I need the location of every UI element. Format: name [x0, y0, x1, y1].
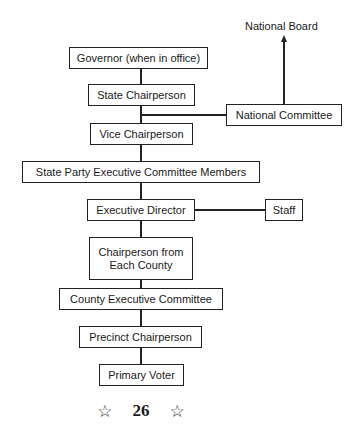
primary-voter-box: Primary Voter [99, 364, 184, 386]
national-board-label: National Board [245, 20, 318, 32]
staff-label: Staff [273, 204, 295, 217]
executive-director-label: Executive Director [96, 204, 185, 217]
executive-director-box: Executive Director [87, 199, 195, 221]
county-exec-committee-label: County Executive Committee [70, 293, 212, 306]
chairperson-each-county-box: Chairperson from Each County [89, 237, 193, 280]
connector-exec-director-to-staff [195, 209, 265, 211]
connector-state-chair-to-national-committee [140, 114, 226, 116]
star-icon: ☆ [97, 401, 112, 421]
connector-county-exec-to-precinct-chair [140, 310, 142, 326]
national-committee-box: National Committee [226, 104, 342, 126]
state-party-exec-committee-label: State Party Executive Committee Members [36, 166, 246, 179]
state-chairperson-label: State Chairperson [97, 89, 186, 102]
connector-exec-director-to-county-chair [140, 221, 142, 237]
governor-box: Governor (when in office) [69, 47, 208, 69]
vice-chairperson-box: Vice Chairperson [90, 123, 193, 145]
connector-vice-chair-to-state-party-exec [140, 145, 142, 162]
precinct-chairperson-label: Precinct Chairperson [89, 331, 192, 344]
governor-label: Governor (when in office) [77, 52, 200, 65]
connector-governor-to-state-chair [140, 69, 142, 84]
connector-national-committee-to-board [283, 41, 285, 105]
page-footer: ☆ 26 ☆ [0, 401, 282, 421]
county-exec-committee-box: County Executive Committee [59, 288, 223, 310]
star-icon: ☆ [170, 401, 185, 421]
vice-chairperson-label: Vice Chairperson [99, 128, 183, 141]
connector-county-chair-to-county-exec [140, 280, 142, 288]
state-party-exec-committee-box: State Party Executive Committee Members [22, 161, 260, 183]
org-chart-page: National Board Governor (when in office)… [0, 0, 358, 440]
connector-state-party-exec-to-exec-director [140, 183, 142, 199]
connector-precinct-chair-to-primary-voter [140, 348, 142, 364]
national-committee-label: National Committee [236, 109, 333, 122]
chairperson-each-county-label-line1: Chairperson from [99, 246, 184, 259]
primary-voter-label: Primary Voter [108, 369, 175, 382]
state-chairperson-box: State Chairperson [88, 84, 195, 106]
staff-box: Staff [265, 199, 303, 221]
page-number: 26 [133, 401, 150, 421]
chairperson-each-county-label-line2: Each County [110, 259, 173, 272]
precinct-chairperson-box: Precinct Chairperson [79, 326, 202, 348]
